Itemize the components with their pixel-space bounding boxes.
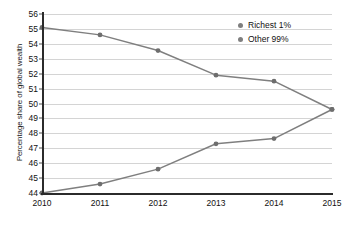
y-axis-tick-label: 56: [29, 9, 38, 19]
x-axis-tick-label: 2011: [91, 198, 109, 208]
x-axis-tick-label: 2010: [33, 198, 52, 208]
legend-label: Other 99%: [248, 34, 289, 44]
legend-item: Richest 1%: [238, 20, 291, 30]
y-axis-tick-label: 53: [29, 54, 38, 64]
data-point-marker: [330, 107, 335, 112]
data-point-marker: [156, 48, 161, 53]
y-axis-tick-label: 49: [29, 113, 38, 123]
y-axis-tick-label: 48: [29, 128, 38, 138]
y-axis-tick-label: 52: [29, 69, 38, 79]
data-point-marker: [214, 141, 219, 146]
y-axis-tick-label: 45: [29, 173, 38, 183]
x-axis-line: [41, 193, 333, 195]
y-axis-tick-label: 51: [29, 84, 38, 94]
data-point-marker: [272, 136, 277, 141]
x-axis-tick-label: 2012: [149, 198, 168, 208]
y-axis-line: [42, 12, 44, 195]
data-point-marker: [98, 182, 103, 187]
y-axis-title: Percentage share of global wealth: [15, 8, 24, 198]
data-point-marker: [272, 79, 277, 84]
y-axis-tick-label: 50: [29, 99, 38, 109]
y-axis-tick-label: 55: [29, 24, 38, 34]
x-axis-tick-label: 2015: [323, 198, 342, 208]
x-axis-tick-label: 2013: [207, 198, 226, 208]
legend-item: Other 99%: [238, 34, 291, 44]
line-chart: Percentage share of global wealth 444546…: [0, 0, 343, 226]
y-axis-tick-label: 47: [29, 143, 38, 153]
legend-label: Richest 1%: [248, 20, 291, 30]
data-point-marker: [156, 167, 161, 172]
series-line: [42, 109, 332, 193]
y-axis-tick-label: 54: [29, 39, 38, 49]
y-axis-tick-label: 44: [29, 188, 38, 198]
data-point-marker: [214, 73, 219, 78]
legend-marker-icon: [238, 23, 243, 28]
x-axis-tick-label: 2014: [265, 198, 284, 208]
y-axis-tick-label: 46: [29, 158, 38, 168]
legend-marker-icon: [238, 37, 243, 42]
chart-legend: Richest 1%Other 99%: [238, 20, 291, 44]
data-point-marker: [98, 32, 103, 37]
